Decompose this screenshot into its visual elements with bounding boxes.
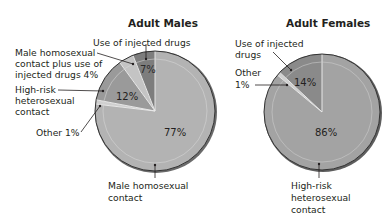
female-label-hetero-line3: contact <box>291 204 325 215</box>
male-label-hetero-line3: contact <box>15 106 49 117</box>
female-label-drugs-line2: drugs <box>235 49 261 60</box>
female-label-hetero-line1: High-risk <box>291 180 332 191</box>
females-pie <box>264 54 382 172</box>
male-label-hetero-line2: heterosexual <box>15 95 75 106</box>
female-label-drugs-line1: Use of injected <box>235 38 304 49</box>
female-pct-hetero: 86% <box>315 127 337 138</box>
female-label-other-line1: Other <box>235 67 261 78</box>
male-label-homosexual-line1: Male homosexual <box>108 180 188 191</box>
male-label-combo-line1: Male homosexual <box>15 47 95 58</box>
males-chart-title: Adult Males <box>128 17 198 29</box>
male-pct-drugs: 7% <box>140 64 156 75</box>
male-label-combo-line3: injected drugs 4% <box>15 69 98 80</box>
male-label-drugs: Use of injected drugs <box>93 37 191 48</box>
male-pct-hetero: 12% <box>116 91 138 102</box>
females-chart-title: Adult Females <box>286 17 370 29</box>
female-pct-drugs: 14% <box>294 77 316 88</box>
male-pct-homosexual: 77% <box>164 127 186 138</box>
male-label-other: Other 1% <box>36 127 80 138</box>
female-label-hetero-line2: heterosexual <box>291 192 351 203</box>
male-label-combo-line2: contact plus use of <box>15 58 102 69</box>
male-label-homosexual-line2: contact <box>108 192 142 203</box>
female-label-other-line2: 1% <box>235 79 250 90</box>
males-pie <box>95 51 217 173</box>
male-label-hetero-line1: High-risk <box>15 84 56 95</box>
